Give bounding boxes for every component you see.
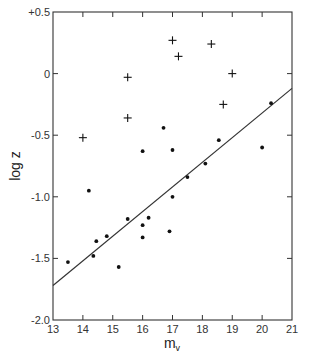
data-point-dot: [171, 148, 175, 152]
fit-line: [53, 88, 292, 285]
regression-line: [53, 88, 292, 285]
data-point-cross: [169, 36, 177, 44]
scatter-chart: 131415161718192021 +0.50-0.5-1.0-1.5-2.0…: [0, 0, 311, 359]
y-tick-label: -0.5: [31, 129, 50, 141]
cross-series: [79, 36, 236, 141]
data-point-cross: [219, 100, 227, 108]
x-tick-label: 15: [107, 323, 119, 335]
x-tick-label: 20: [256, 323, 268, 335]
data-point-cross: [174, 52, 182, 60]
data-point-cross: [124, 73, 132, 81]
x-tick-label: 16: [137, 323, 149, 335]
data-point-dot: [126, 217, 130, 221]
data-point-dot: [168, 229, 172, 233]
data-point-dot: [141, 149, 145, 153]
y-tick-label: 0: [44, 68, 50, 80]
data-point-dot: [186, 175, 190, 179]
x-tick-label: 19: [226, 323, 238, 335]
x-axis-label: mv: [164, 335, 181, 353]
data-point-dot: [203, 162, 207, 166]
data-point-dot: [162, 126, 166, 130]
data-point-dot: [66, 260, 70, 264]
y-tick-label: +0.5: [28, 6, 50, 18]
data-point-cross: [79, 134, 87, 142]
data-point-dot: [141, 236, 145, 240]
data-point-cross: [207, 40, 215, 48]
data-point-dot: [141, 223, 145, 227]
y-tick-label: -1.5: [31, 252, 50, 264]
data-point-dot: [117, 265, 121, 269]
y-axis-label: log z: [7, 151, 23, 181]
data-point-dot: [91, 254, 95, 258]
data-point-dot: [94, 239, 98, 243]
x-axis-ticks: 131415161718192021: [47, 12, 298, 335]
data-point-dot: [217, 138, 221, 142]
data-point-cross: [228, 70, 236, 78]
data-point-dot: [105, 234, 109, 238]
x-tick-label: 17: [166, 323, 178, 335]
plot-border: [53, 12, 292, 320]
plot-frame: [53, 12, 292, 320]
y-tick-label: -2.0: [31, 314, 50, 326]
data-point-dot: [269, 101, 273, 105]
data-point-dot: [147, 216, 151, 220]
y-tick-label: -1.0: [31, 191, 50, 203]
data-point-dot: [171, 195, 175, 199]
y-axis-ticks: +0.50-0.5-1.0-1.5-2.0: [28, 6, 292, 326]
x-tick-label: 14: [77, 323, 89, 335]
x-tick-label: 21: [286, 323, 298, 335]
dot-series: [66, 101, 273, 269]
data-point-dot: [260, 146, 264, 150]
data-point-dot: [87, 189, 91, 193]
x-tick-label: 18: [196, 323, 208, 335]
data-point-cross: [124, 114, 132, 122]
